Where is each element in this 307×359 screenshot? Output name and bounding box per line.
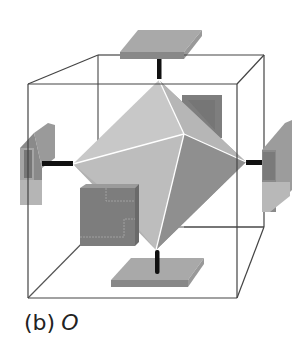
- right-block: [262, 120, 292, 212]
- figure-caption: (b)O: [24, 310, 78, 335]
- top-rod: [157, 59, 162, 79]
- caption-label: (b): [24, 310, 55, 335]
- bottom-rod: [155, 250, 160, 274]
- right-rod: [246, 160, 262, 165]
- caption-symbol: O: [61, 310, 78, 335]
- front-block: [80, 184, 139, 246]
- left-rod: [42, 161, 73, 166]
- octahedron-cube-figure: [0, 0, 307, 359]
